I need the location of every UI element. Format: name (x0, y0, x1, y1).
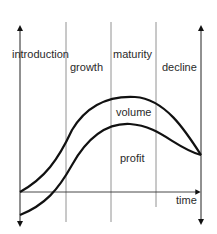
time-axis-label: time (176, 194, 197, 206)
product-life-cycle-diagram: introduction growth maturity decline vol… (0, 0, 217, 234)
stage-label-introduction: introduction (12, 48, 69, 60)
volume-curve (20, 97, 201, 192)
stage-label-decline: decline (162, 61, 197, 73)
stage-label-growth: growth (70, 61, 103, 73)
volume-label: volume (116, 106, 151, 118)
stage-label-maturity: maturity (113, 48, 153, 60)
profit-label: profit (120, 152, 144, 164)
